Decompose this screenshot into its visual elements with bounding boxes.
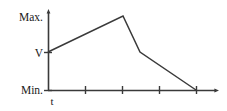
line-chart-svg: Max. V Min. t xyxy=(0,0,227,111)
x-axis-label-t: t xyxy=(50,95,53,107)
y-axis-label-min: Min. xyxy=(21,84,43,96)
y-axis-label-mid: V xyxy=(35,47,44,59)
y-axis-label-max: Max. xyxy=(19,11,43,23)
chart-figure: Max. V Min. t xyxy=(0,0,227,111)
